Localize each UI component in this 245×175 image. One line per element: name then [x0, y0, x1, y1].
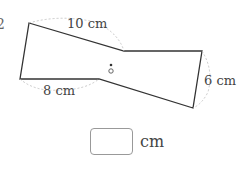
- label-right-length: 6 cm: [204, 73, 236, 88]
- label-bottom-left-length: 8 cm: [43, 83, 75, 98]
- label-top-length: 10 cm: [67, 16, 107, 31]
- center-point-dot: [110, 64, 113, 67]
- answer-unit: cm: [140, 132, 164, 151]
- center-point-ring: [109, 69, 113, 73]
- answer-input-box[interactable]: [90, 128, 133, 155]
